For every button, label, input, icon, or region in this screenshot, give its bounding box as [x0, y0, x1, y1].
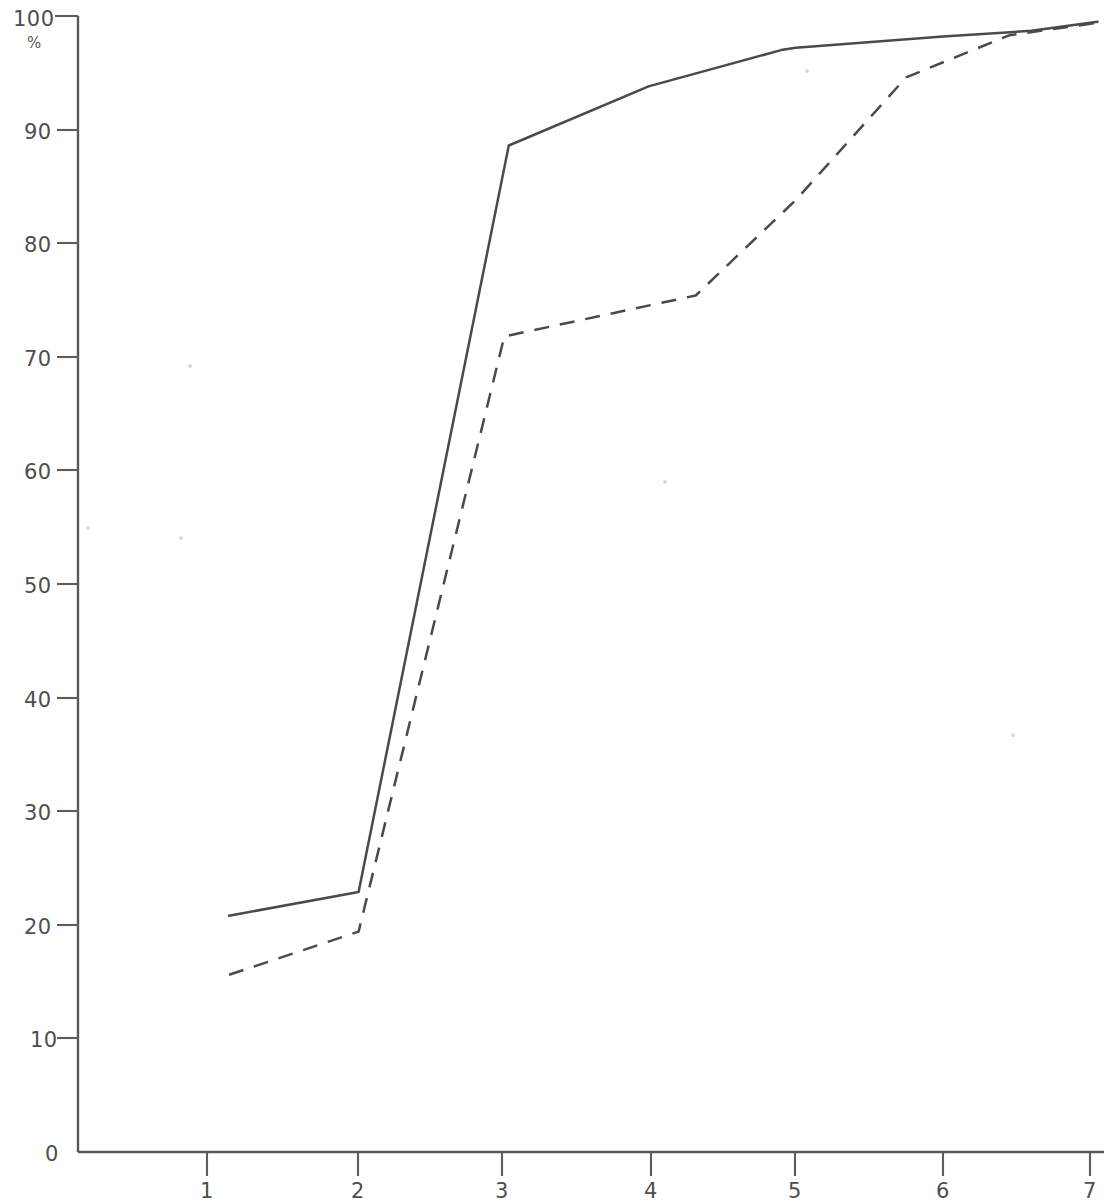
data-series-dashed-line	[229, 23, 1098, 975]
y-tick-label-10: 10	[30, 1028, 58, 1052]
x-tick-label-5: 5	[788, 1179, 802, 1202]
line-chart-svg: 100 % 90 80 70 60 50 40 30 20 10 0 1 2 3…	[0, 0, 1116, 1202]
y-tick-label-70: 70	[24, 347, 52, 371]
y-tick-label-60: 60	[24, 460, 52, 484]
x-axis-ticks	[207, 1152, 1090, 1176]
x-tick-label-1: 1	[200, 1179, 214, 1202]
y-axis-unit-label: %	[27, 34, 41, 52]
y-tick-label-80: 80	[24, 233, 52, 257]
data-series-solid-line	[229, 22, 1098, 916]
y-tick-label-40: 40	[24, 688, 52, 712]
y-tick-label-30: 30	[24, 801, 52, 825]
y-tick-label-20: 20	[24, 915, 52, 939]
x-tick-label-7: 7	[1083, 1179, 1097, 1202]
x-tick-label-3: 3	[495, 1179, 509, 1202]
y-axis-ticks	[55, 16, 78, 1038]
x-tick-label-4: 4	[644, 1179, 658, 1202]
x-tick-label-2: 2	[351, 1179, 365, 1202]
y-tick-label-100: 100	[13, 7, 55, 31]
x-tick-label-6: 6	[936, 1179, 950, 1202]
y-tick-label-50: 50	[24, 574, 52, 598]
chart-figure: 100 % 90 80 70 60 50 40 30 20 10 0 1 2 3…	[0, 0, 1116, 1202]
scan-artifacts	[86, 69, 1015, 737]
y-tick-label-90: 90	[24, 120, 52, 144]
y-tick-label-0: 0	[45, 1142, 59, 1166]
